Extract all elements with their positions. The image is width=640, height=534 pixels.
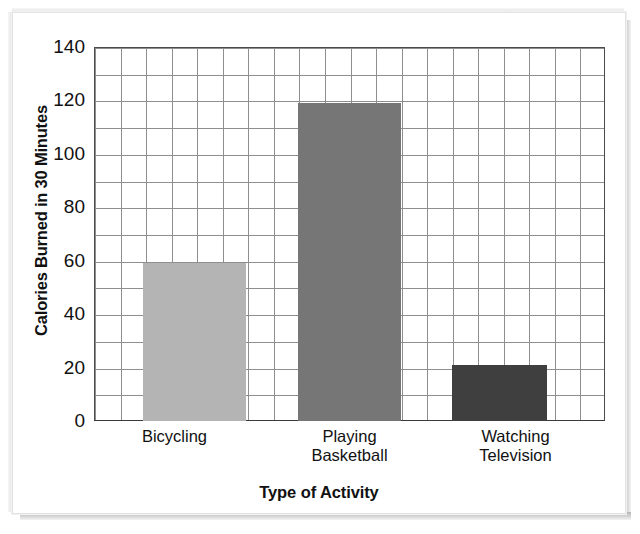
y-tick-100: 100: [53, 143, 85, 165]
x-label-bicycling: Bicycling: [98, 427, 251, 446]
plot-area-wrapper: 0 20 40 60 80 100 120 140: [94, 47, 605, 421]
bar-watching-television[interactable]: [452, 365, 547, 421]
y-axis-title: Calories Burned in 30 Minutes: [32, 41, 51, 401]
bar-series: [94, 47, 605, 421]
y-tick-40: 40: [64, 303, 85, 325]
y-tick-60: 60: [64, 250, 85, 272]
x-axis-title: Type of Activity: [13, 483, 625, 502]
y-tick-0: 0: [74, 410, 85, 432]
bar-chart: Calories Burned in 30 Minutes 0 20 40 60…: [13, 13, 625, 513]
x-axis-category-labels: Bicycling Playing Basketball Watching Te…: [94, 427, 605, 487]
bar-bicycling[interactable]: [143, 263, 246, 421]
x-label-watching-television: Watching Television: [439, 427, 592, 465]
y-tick-140: 140: [53, 36, 85, 58]
y-tick-80: 80: [64, 196, 85, 218]
y-tick-120: 120: [53, 89, 85, 111]
bar-playing-basketball[interactable]: [298, 103, 401, 421]
chart-page: Calories Burned in 30 Minutes 0 20 40 60…: [0, 0, 640, 534]
paper-frame: Calories Burned in 30 Minutes 0 20 40 60…: [12, 12, 626, 514]
y-tick-20: 20: [64, 357, 85, 379]
x-label-playing-basketball: Playing Basketball: [273, 427, 426, 465]
